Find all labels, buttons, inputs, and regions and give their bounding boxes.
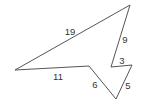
polygon-diagram: 19 9 3 5 6 11 — [0, 0, 141, 107]
side-label-19: 19 — [65, 26, 76, 37]
side-label-5: 5 — [125, 80, 130, 91]
side-label-9: 9 — [122, 34, 127, 45]
side-label-6: 6 — [92, 79, 97, 90]
polygon-shape — [15, 5, 132, 99]
side-label-3: 3 — [119, 55, 124, 66]
side-label-11: 11 — [53, 71, 63, 82]
